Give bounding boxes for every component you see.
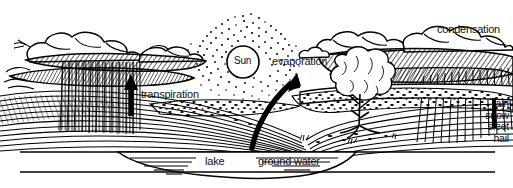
water-cycle-diagram: Sun evaporation transpiration condensati… [0,0,513,188]
transpiration-label: transpiration [141,89,199,100]
condensation-label: condensation [437,24,500,35]
precipitation-item-hail: hail [469,133,509,145]
rocky-ridge-left [150,100,300,116]
evaporation-label: evaporation [272,56,327,67]
ground-water-label: ground water [258,156,320,167]
tree-canopy [331,47,396,100]
precipitation-item-sleet: sleet [469,121,509,133]
sun-label: Sun [234,56,251,66]
lake-label: lake [205,156,224,167]
precipitation-label-group: rain snow sleet hail [469,98,509,144]
lake-basin [118,152,356,178]
precipitation-item-rain: rain [469,98,509,110]
